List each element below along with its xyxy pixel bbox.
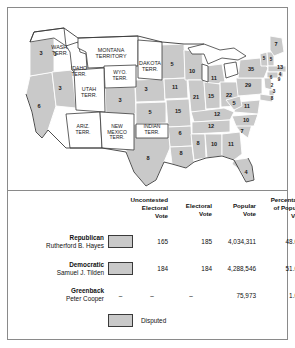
row-greenback-percentage: 1.0: [256, 292, 295, 299]
votes-delaware: 3: [273, 90, 276, 95]
votes-connecticut: 6: [270, 76, 273, 81]
row-republican-popular: 4,034,311: [208, 238, 256, 245]
votes-ohio: 22: [226, 93, 232, 99]
territory-idaho-label: IDAHO TERR.: [71, 66, 87, 77]
row-democratic-label: Democratic Samuel J. Tilden: [8, 261, 104, 278]
lake-huron-erie: [224, 62, 238, 78]
votes-tennessee: 12: [208, 124, 214, 130]
votes-georgia: 11: [228, 142, 234, 148]
votes-west-virginia: 5: [232, 101, 235, 107]
votes-colorado: 3: [118, 98, 121, 104]
votes-missouri: 15: [175, 109, 181, 115]
votes-florida: 4: [244, 170, 247, 176]
votes-dc: 2: [271, 84, 274, 89]
votes-nebraska: 3: [144, 87, 147, 93]
votes-louisiana: 8: [179, 151, 182, 157]
row-democratic-percentage: 51.0: [256, 265, 295, 272]
votes-wisconsin: 10: [189, 69, 195, 75]
row-republican-percentage: 48.0: [256, 238, 295, 245]
lake-michigan: [202, 64, 208, 82]
votes-kentucky: 12: [214, 112, 220, 118]
row-democratic-candidate: Samuel J. Tilden: [8, 269, 104, 277]
votes-new-jersey: 9: [278, 78, 281, 83]
territory-indian-label: INDIAN TERR.: [144, 124, 161, 135]
votes-virginia: 11: [244, 104, 250, 110]
header-popular-vote: Popular Vote: [212, 202, 256, 218]
row-democratic-swatch: [108, 262, 133, 275]
state-nebraska: [135, 79, 165, 102]
row-republican-swatch: [108, 235, 133, 248]
section-divider: [8, 190, 287, 191]
votes-nevada: 3: [58, 86, 61, 92]
row-democratic-popular: 4,288,546: [208, 265, 256, 272]
results-table: Uncontested Electoral Vote Electoral Vot…: [8, 192, 287, 340]
votes-washington-1: 1: [53, 52, 56, 58]
votes-maine: 7: [274, 42, 277, 48]
row-greenback-electoral: –: [170, 292, 212, 299]
header-uncontested-electoral-vote: Uncontested Electoral Vote: [106, 196, 168, 220]
row-republican-party: Republican: [8, 234, 104, 242]
legend-disputed-swatch: [108, 314, 133, 327]
territory-wyoming-label: WYO. TERR.: [113, 70, 128, 81]
votes-oregon: 3: [39, 51, 42, 57]
us-electoral-map: WASH. TERR. MONTANA TERRITORY DAKOTA TER…: [8, 8, 287, 190]
votes-iowa: 11: [172, 85, 178, 91]
votes-new-york: 35: [248, 67, 254, 73]
row-greenback-party: Greenback: [8, 287, 104, 295]
votes-north-carolina: 10: [243, 118, 249, 124]
votes-arkansas: 6: [178, 131, 181, 137]
votes-minnesota: 5: [170, 62, 173, 68]
state-wisconsin: [184, 50, 204, 80]
row-republican-electoral: 185: [170, 238, 212, 245]
row-greenback-label: Greenback Peter Cooper: [8, 287, 104, 304]
state-mississippi: [191, 134, 206, 160]
row-republican-label: Republican Rutherford B. Hayes: [8, 234, 104, 251]
votes-california: 6: [37, 104, 40, 110]
election-map-figure: WASH. TERR. MONTANA TERRITORY DAKOTA TER…: [0, 0, 295, 348]
votes-maryland: 8: [271, 97, 274, 102]
territory-montana-label: MONTANA TERRITORY: [96, 47, 127, 59]
row-republican-uncontested-electoral: 165: [136, 238, 168, 245]
votes-illinois: 21: [193, 95, 199, 101]
territory-dakota-label: DAKOTA TERR.: [139, 60, 161, 72]
votes-mississippi: 8: [196, 141, 199, 147]
legend-disputed-label: Disputed: [141, 317, 166, 324]
territory-utah-label: UTAH TERR.: [81, 86, 97, 98]
row-democratic-electoral: 184: [170, 265, 212, 272]
row-democratic-uncontested-electoral: 184: [136, 265, 168, 272]
row-greenback-candidate: Peter Cooper: [8, 295, 104, 303]
votes-south-carolina: 7: [240, 129, 243, 135]
state-california: [26, 72, 56, 138]
map-svg: [8, 8, 287, 190]
row-democratic-party: Democratic: [8, 261, 104, 269]
votes-massachusetts: 13: [277, 65, 283, 71]
row-republican-candidate: Rutherford B. Hayes: [8, 242, 104, 250]
row-greenback-uncontested-swatch-dash: –: [108, 292, 133, 299]
territory-new-mexico-label: NEW MEXICO TERR.: [107, 124, 127, 141]
votes-michigan: 11: [211, 76, 217, 82]
header-percentage-popular-vote: Percentage of Popular Vote: [256, 196, 295, 220]
votes-kansas: 5: [148, 110, 151, 116]
votes-pennsylvania: 29: [245, 83, 251, 89]
header-electoral-vote: Electoral Vote: [168, 202, 212, 218]
row-greenback-uncontested-electoral: –: [136, 292, 168, 299]
votes-vermont: 5: [263, 57, 266, 62]
votes-texas: 8: [146, 156, 149, 162]
row-greenback-popular: 75,973: [208, 292, 256, 299]
votes-alabama: 10: [211, 142, 217, 148]
territory-arizona-label: ARIZ. TERR.: [76, 124, 91, 135]
votes-indiana: 15: [208, 94, 214, 100]
votes-new-hampshire: 5: [270, 58, 273, 63]
